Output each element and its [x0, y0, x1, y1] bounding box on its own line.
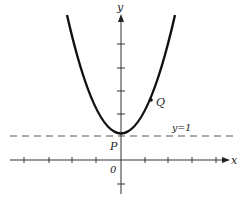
point-q-marker [149, 98, 153, 102]
x-axis-arrow-icon [222, 157, 230, 163]
origin-label: 0 [110, 164, 117, 175]
parabola-diagram: y x 0 P Q y=1 [0, 0, 239, 197]
x-axis-label: x [231, 154, 238, 167]
point-q-label: Q [156, 96, 165, 109]
dashed-line-label: y=1 [171, 122, 191, 133]
point-p-label: P [109, 140, 118, 153]
y-axis-label: y [116, 1, 124, 14]
y-axis-arrow-icon [118, 14, 124, 22]
